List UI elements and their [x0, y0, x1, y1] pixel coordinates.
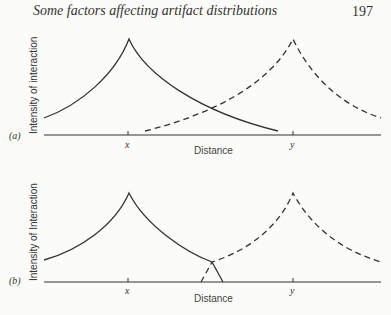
diagram: (a) Intensity of interaction x y Distanc… [0, 0, 391, 315]
panel-b: (b) Intensity of Interaction x y Distanc… [9, 183, 381, 304]
dashed-curve-y [145, 39, 381, 131]
dashed-curve-y [201, 193, 381, 282]
tick-label-x: x [124, 139, 130, 150]
y-axis-label: Intensity of interaction [28, 37, 39, 134]
tick-label-x: x [124, 285, 130, 296]
panel-a: (a) Intensity of interaction x y Distanc… [9, 37, 381, 156]
solid-curve-x [44, 193, 223, 282]
y-axis-label: Intensity of Interaction [28, 183, 39, 281]
tick-label-y: y [289, 139, 295, 150]
x-axis-label: Distance [194, 145, 233, 156]
tick-label-y: y [289, 285, 295, 296]
panel-label: (b) [9, 275, 21, 287]
x-axis-label: Distance [194, 293, 233, 304]
panel-label: (a) [9, 130, 21, 142]
solid-curve-x [44, 39, 278, 131]
